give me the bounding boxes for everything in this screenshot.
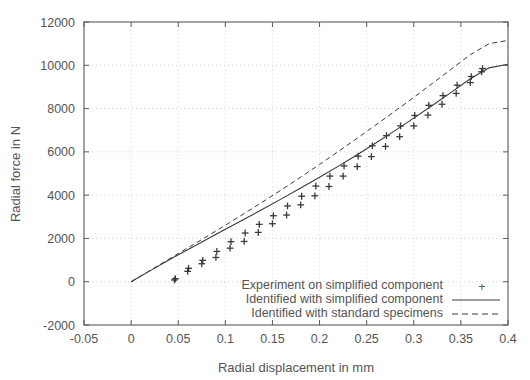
y-tick-label: 6000 <box>47 145 75 159</box>
figure-background <box>0 0 530 380</box>
x-tick-label: 0.1 <box>217 332 234 346</box>
y-tick-label: -2000 <box>43 319 75 333</box>
x-tick-label: -0.05 <box>70 332 99 346</box>
y-tick-label: 8000 <box>47 102 75 116</box>
x-tick-label: 0.25 <box>354 332 378 346</box>
y-tick-label: 4000 <box>47 189 75 203</box>
legend-marker-plus-icon: + <box>478 280 485 294</box>
legend-label-identified-simplified: Identified with simplified component <box>246 292 444 306</box>
x-tick-label: 0.2 <box>311 332 328 346</box>
x-tick-label: 0.05 <box>166 332 190 346</box>
legend-label-experiment: Experiment on simplified component <box>242 278 444 292</box>
x-axis-label: Radial displacement in mm <box>218 360 374 375</box>
radial-force-vs-displacement-chart: -0.0500.050.10.150.20.250.30.350.4 -2000… <box>0 0 530 380</box>
x-tick-label: 0.4 <box>499 332 516 346</box>
y-tick-label: 10000 <box>40 59 75 73</box>
y-axis-label: Radial force in N <box>8 126 23 222</box>
y-tick-label: 2000 <box>47 232 75 246</box>
x-tick-label: 0.15 <box>260 332 284 346</box>
x-tick-label: 0 <box>128 332 135 346</box>
x-tick-label: 0.35 <box>449 332 473 346</box>
legend-label-identified-standard: Identified with standard specimens <box>251 306 443 320</box>
x-tick-label: 0.3 <box>405 332 422 346</box>
y-tick-label: 0 <box>68 275 75 289</box>
y-tick-label: 12000 <box>40 16 75 30</box>
